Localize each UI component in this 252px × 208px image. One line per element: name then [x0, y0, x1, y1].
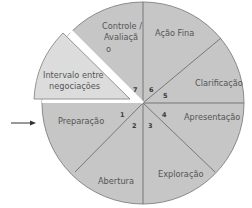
sector-label-abertura: Abertura [98, 176, 134, 186]
sector-number-3: 3 [148, 122, 153, 130]
intervalo-label-line1: Intervalo entre [43, 70, 104, 80]
sector-number-4: 4 [162, 111, 167, 119]
sector-label-clarificacao: Clarificação [195, 78, 243, 88]
sector-number-2: 2 [132, 122, 137, 130]
sector-label-controle-line3: o [106, 44, 111, 54]
sector-label-preparacao: Preparação [58, 116, 104, 126]
sector-number-1: 1 [120, 111, 125, 119]
sector-label-apresentacao: Apresentação [184, 112, 240, 122]
intervalo-label-line2: negociações [49, 81, 100, 91]
sector-number-6: 6 [149, 86, 154, 94]
sector-number-5: 5 [163, 92, 168, 100]
entry-arrow-icon [30, 121, 36, 126]
sector-label-exploracao: Exploração [158, 169, 203, 179]
sector-label-controle-line2: Avaliaçã [104, 32, 138, 42]
sector-label-controle-line1: Controle / [102, 21, 142, 31]
sector-number-7: 7 [133, 86, 138, 94]
sector-label-acao-final: Ação Fina [155, 28, 194, 38]
negotiation-process-wheel: Intervalo entre negociações Preparação A… [0, 0, 252, 208]
